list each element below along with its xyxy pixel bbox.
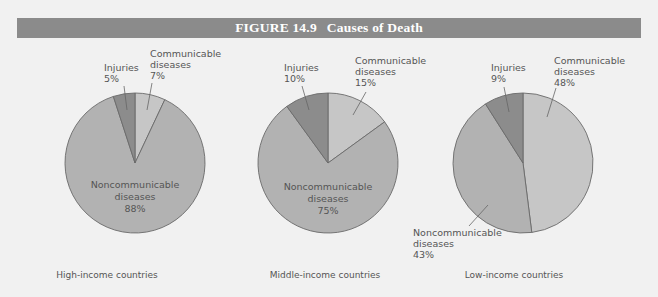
pie-chart-high-income: Injuries5% Communicablediseases7% Noncom… <box>56 48 221 280</box>
svg-text:Communicablediseases15%: Communicablediseases15% <box>355 55 426 88</box>
slice-communicable <box>523 93 593 232</box>
svg-text:Injuries10%: Injuries10% <box>284 62 319 84</box>
caption-middle-income: Middle-income countries <box>270 270 381 280</box>
pie-chart-middle-income: Injuries10% Communicablediseases15% Nonc… <box>258 55 426 280</box>
svg-text:Communicablediseases48%: Communicablediseases48% <box>554 55 625 88</box>
svg-text:Injuries9%: Injuries9% <box>491 62 526 84</box>
pie-charts: Injuries5% Communicablediseases7% Noncom… <box>0 0 658 297</box>
svg-text:Injuries5%: Injuries5% <box>104 62 139 84</box>
svg-text:Noncommunicablediseases43%: Noncommunicablediseases43% <box>413 227 502 260</box>
pie-chart-low-income: Injuries9% Communicablediseases48% Nonco… <box>413 55 625 280</box>
caption-high-income: High-income countries <box>56 270 158 280</box>
caption-low-income: Low-income countries <box>465 270 564 280</box>
svg-text:Communicablediseases7%: Communicablediseases7% <box>150 48 221 81</box>
